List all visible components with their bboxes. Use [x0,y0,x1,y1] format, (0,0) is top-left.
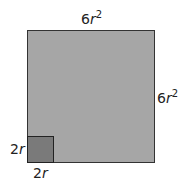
small-square [27,136,54,163]
small-square-height-label: 2r [10,142,25,156]
small-square-width-label: 2r [33,166,48,180]
right-side-label: 6r2 [157,91,178,105]
top-side-label: 6r2 [81,12,102,26]
